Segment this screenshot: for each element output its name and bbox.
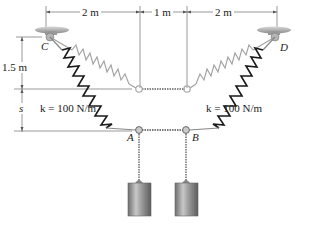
- dim-vertical-s: s: [19, 103, 23, 114]
- point-a-label: A: [127, 132, 134, 143]
- chains: [139, 134, 186, 180]
- stretched-spring-left: [50, 37, 136, 130]
- dim-middle-1m: 1 m: [152, 7, 173, 18]
- dim-left-2m: 2 m: [80, 7, 101, 18]
- unstretched-spring-right: [190, 37, 275, 88]
- spring-right-stiffness: k = 100 N/m: [206, 103, 262, 114]
- point-c-label: C: [41, 41, 48, 52]
- spring-left-stiffness: k = 100 N/m: [40, 103, 96, 114]
- lower-link: [136, 127, 190, 134]
- unstretched-spring-left: [50, 37, 136, 88]
- upper-link: [136, 86, 190, 92]
- point-b-label: B: [192, 132, 199, 143]
- dim-right-2m: 2 m: [213, 7, 234, 18]
- weight-left: [128, 179, 151, 216]
- spring-system-diagram: [0, 0, 315, 245]
- stretched-spring-right: [189, 37, 275, 130]
- point-d-label: D: [280, 42, 288, 53]
- dim-vertical-1-5m: 1.5 m: [2, 62, 27, 73]
- weight-right: [175, 179, 198, 216]
